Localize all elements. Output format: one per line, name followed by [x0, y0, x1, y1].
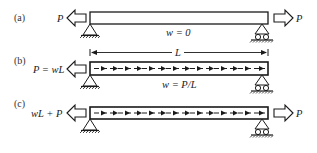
distributed-label-a: w = 0 [166, 27, 191, 38]
span-label: L [174, 47, 181, 58]
left-force-arrow-icon [67, 10, 86, 26]
pin-support-icon [80, 119, 100, 133]
roller-support-icon [250, 119, 273, 138]
pin-support-icon [80, 75, 100, 89]
right-load-label-c: P [295, 108, 303, 119]
pin-support-icon [80, 24, 100, 38]
left-load-label-b: P = wL [32, 64, 65, 75]
roller-support-icon [250, 24, 273, 43]
left-force-arrow-icon [67, 61, 86, 77]
roller-support-icon [250, 75, 273, 94]
right-force-arrow-icon [274, 10, 293, 26]
panel-c: (c) wL + P P [14, 98, 303, 138]
left-load-label-c: wL + P [31, 108, 63, 119]
left-load-label-a: P [56, 13, 64, 24]
panel-tag-a: (a) [14, 12, 25, 24]
left-force-arrow-icon [67, 105, 86, 121]
beam-a [90, 12, 268, 24]
panel-tag-c: (c) [14, 98, 25, 110]
right-force-arrow-icon [274, 105, 293, 121]
panel-a: (a) P P w = 0 [14, 10, 303, 43]
distributed-label-b: w = P/L [162, 79, 197, 90]
panel-tag-b: (b) [14, 55, 26, 67]
beam-loading-diagram: (a) P P w = 0 L (b) P = wL [0, 0, 317, 153]
panel-b: (b) P = wL w = P/L [14, 55, 273, 94]
span-dimension: L [90, 47, 268, 58]
right-load-label-a: P [295, 13, 303, 24]
